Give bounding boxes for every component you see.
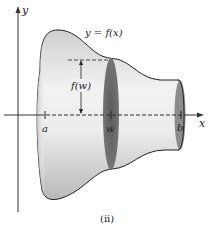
tick-label-b: b: [177, 122, 183, 133]
solid-of-revolution-diagram: y x a w b f(w) y = f(x) (ii): [0, 0, 216, 226]
radius-label: f(w): [70, 80, 91, 91]
tick-label-w: w: [106, 123, 115, 134]
y-axis-arrow-icon: [16, 6, 21, 13]
curve-label: y = f(x): [84, 27, 123, 38]
y-axis-label: y: [21, 4, 29, 17]
x-axis-label: x: [199, 117, 206, 130]
figure-caption: (ii): [100, 213, 114, 224]
tick-label-a: a: [42, 123, 48, 134]
